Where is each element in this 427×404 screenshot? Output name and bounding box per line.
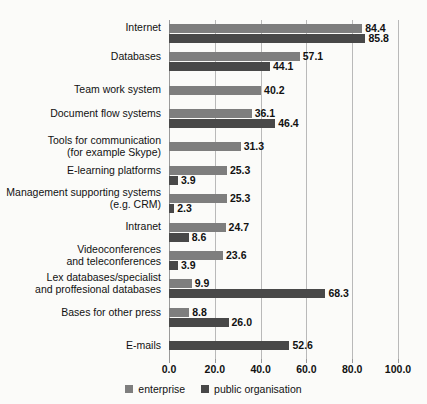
bar-value-label: 57.1 <box>303 52 323 61</box>
x-tick-label: 100.0 <box>385 363 411 375</box>
category-label: Bases for other press <box>0 307 161 319</box>
x-tick-label: 60.0 <box>296 363 316 375</box>
bar-value-label: 31.3 <box>244 142 264 151</box>
bar-public-organisation <box>169 341 289 350</box>
bar-public-organisation <box>169 204 174 213</box>
category-label: Databases <box>0 51 161 63</box>
bar-value-label: 25.3 <box>230 194 250 203</box>
bar-value-label: 2.3 <box>177 204 192 213</box>
bar-value-label: 8.6 <box>192 233 207 242</box>
bar-enterprise <box>169 308 189 317</box>
x-tick-label: 0.0 <box>162 363 177 375</box>
category-label: Lex databases/specialist and proffesiona… <box>0 272 161 295</box>
x-tick-label: 80.0 <box>342 363 362 375</box>
bar-group: 9.968.3 <box>169 276 398 304</box>
bar-enterprise <box>169 109 252 118</box>
bar-public-organisation <box>169 119 275 128</box>
bar-group: 24.78.6 <box>169 219 398 247</box>
bar-public-organisation <box>169 34 365 43</box>
bar-value-label: 23.6 <box>226 251 246 260</box>
category-label: Management supporting systems (e.g. CRM) <box>0 187 161 210</box>
grouped-bar-chart: 84.485.857.144.140.236.146.431.325.33.92… <box>0 14 427 404</box>
gridline-100.0 <box>398 20 399 361</box>
bar-value-label: 8.8 <box>192 308 207 317</box>
bar-enterprise <box>169 86 261 95</box>
bar-value-label: 24.7 <box>229 223 249 232</box>
bar-value-label: 40.2 <box>264 86 284 95</box>
bar-public-organisation <box>169 289 325 298</box>
plot-area: 84.485.857.144.140.236.146.431.325.33.92… <box>169 20 398 361</box>
bar-groups: 84.485.857.144.140.236.146.431.325.33.92… <box>169 20 398 361</box>
legend-label: public organisation <box>214 383 302 395</box>
bar-group: 31.3 <box>169 134 398 162</box>
chart-legend: enterprisepublic organisation <box>0 383 427 395</box>
bar-group: 25.33.9 <box>169 162 398 190</box>
bar-value-label: 44.1 <box>273 62 293 71</box>
bar-group: 8.826.0 <box>169 304 398 332</box>
legend-item[interactable]: enterprise <box>125 383 185 395</box>
bar-value-label: 68.3 <box>328 289 348 298</box>
bar-group: 40.2 <box>169 77 398 105</box>
x-tick-label: 20.0 <box>205 363 225 375</box>
x-tick-label: 40.0 <box>250 363 270 375</box>
bar-group: 84.485.8 <box>169 20 398 48</box>
bar-enterprise <box>169 24 362 33</box>
bar-value-label: 25.3 <box>230 166 250 175</box>
category-axis-labels: InternetDatabasesTeam work systemDocumen… <box>0 20 165 361</box>
bar-public-organisation <box>169 233 189 242</box>
legend-swatch-icon <box>201 385 209 393</box>
bar-value-label: 36.1 <box>255 109 275 118</box>
category-label: Intranet <box>0 221 161 233</box>
legend-item[interactable]: public organisation <box>201 383 302 395</box>
category-label: Internet <box>0 22 161 34</box>
bar-value-label: 26.0 <box>232 318 252 327</box>
bar-public-organisation <box>169 318 229 327</box>
bar-value-label: 3.9 <box>181 176 196 185</box>
bar-group: 23.63.9 <box>169 247 398 275</box>
legend-label: enterprise <box>138 383 185 395</box>
bar-enterprise <box>169 279 192 288</box>
bar-value-label: 9.9 <box>195 279 210 288</box>
category-label: E-learning platforms <box>0 165 161 177</box>
category-label: Videoconferences and teleconferences <box>0 244 161 267</box>
bar-public-organisation <box>169 62 270 71</box>
bar-value-label: 3.9 <box>181 261 196 270</box>
bar-group: 25.32.3 <box>169 191 398 219</box>
category-label: Tools for communication (for example Sky… <box>0 135 161 158</box>
bar-group: 52.6 <box>169 333 398 361</box>
bar-value-label: 85.8 <box>368 34 388 43</box>
category-label: Document flow systems <box>0 108 161 120</box>
category-label: Team work system <box>0 84 161 96</box>
bar-enterprise <box>169 142 241 151</box>
category-label: E-mails <box>0 340 161 352</box>
bar-value-label: 46.4 <box>278 119 298 128</box>
bar-enterprise <box>169 251 223 260</box>
page-bleed-artifact <box>0 0 427 14</box>
x-axis-tick-labels: 0.020.040.060.080.0100.0 <box>169 363 398 379</box>
bar-group: 36.146.4 <box>169 105 398 133</box>
bar-enterprise <box>169 166 227 175</box>
bar-public-organisation <box>169 261 178 270</box>
legend-swatch-icon <box>125 385 133 393</box>
bar-value-label: 52.6 <box>292 341 312 350</box>
bar-group: 57.144.1 <box>169 48 398 76</box>
bar-public-organisation <box>169 176 178 185</box>
